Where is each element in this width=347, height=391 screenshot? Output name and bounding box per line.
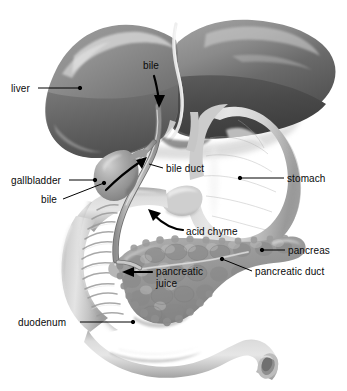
label-pancreatic-duct: pancreatic duct: [255, 266, 324, 277]
anatomy-figure: liver bile gallbladder bile bile duct st…: [0, 0, 347, 391]
label-bile-gallbladder: bile: [41, 194, 57, 205]
leader-stomach: [238, 176, 284, 179]
label-acid-chyme: acid chyme: [186, 226, 238, 237]
label-liver: liver: [11, 83, 30, 94]
label-bile-duct: bile duct: [166, 163, 204, 174]
label-gallbladder: gallbladder: [11, 175, 61, 186]
label-duodenum: duodenum: [18, 317, 66, 328]
label-stomach: stomach: [287, 173, 326, 184]
leader-bile-duct: [149, 164, 163, 168]
leader-gallbladder: [69, 178, 97, 181]
label-pancreatic-juice: pancreatic juice: [156, 266, 218, 290]
label-bile-top: bile: [143, 60, 159, 71]
label-pancreas: pancreas: [288, 245, 330, 256]
